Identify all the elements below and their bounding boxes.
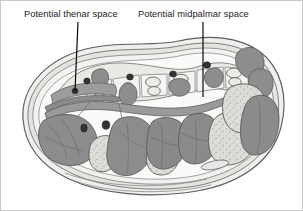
palmar-arch-vessel: [102, 121, 110, 129]
interosseous-muscle: [169, 79, 190, 97]
digital-vessel: [204, 62, 211, 68]
digital-vessel: [127, 74, 134, 80]
anatomy-figure: Potential thenar space Potential midpalm…: [0, 0, 303, 211]
digital-vessel: [84, 78, 90, 84]
label-potential-midpalmar-space: Potential midpalmar space: [138, 9, 249, 20]
interosseous-muscle: [119, 83, 137, 105]
palm-cross-section-illustration: [1, 1, 303, 211]
palmar-arch-vessel: [81, 124, 87, 132]
label-potential-thenar-space: Potential thenar space: [24, 9, 118, 20]
digital-vessel: [170, 71, 177, 77]
interosseous-muscle: [204, 68, 223, 88]
